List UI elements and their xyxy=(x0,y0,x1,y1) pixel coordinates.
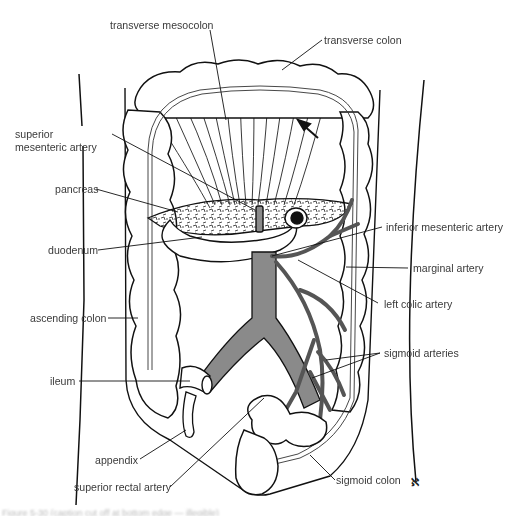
label-superior-mesenteric-artery: superior mesenteric artery xyxy=(15,128,102,154)
label-inferior-mesenteric-artery: inferior mesenteric artery xyxy=(386,221,503,234)
sigmoid-colon-shape xyxy=(236,395,327,494)
artist-mark: ℵ xyxy=(411,476,419,489)
label-sigmoid-arteries: sigmoid arteries xyxy=(384,347,459,360)
label-transverse-mesocolon: transverse mesocolon xyxy=(110,19,214,32)
figure-caption: Figure 5-30 (caption cut off at bottom e… xyxy=(2,508,522,516)
label-pancreas: pancreas xyxy=(55,183,99,196)
label-ileum: ileum xyxy=(50,375,75,388)
label-sigmoid-colon: sigmoid colon xyxy=(336,474,401,487)
arrow-icon xyxy=(298,120,318,138)
anatomy-diagram: transverse mesocolon transverse colon su… xyxy=(0,0,523,516)
label-left-colic-artery: left colic artery xyxy=(384,298,452,311)
label-appendix: appendix xyxy=(95,454,138,467)
label-superior-rectal-artery: superior rectal artery xyxy=(74,481,171,494)
label-duodenum: duodenum xyxy=(48,244,98,257)
label-marginal-artery: marginal artery xyxy=(413,262,484,275)
aorta-shape xyxy=(196,252,320,408)
label-transverse-colon: transverse colon xyxy=(324,34,402,47)
label-ascending-colon: ascending colon xyxy=(30,312,106,325)
colon-illustration xyxy=(0,0,523,516)
